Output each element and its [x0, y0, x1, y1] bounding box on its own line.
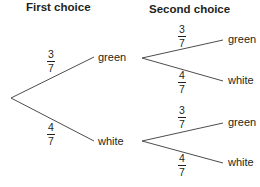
numerator: 3 — [48, 49, 54, 61]
numerator: 4 — [48, 122, 54, 134]
numerator: 3 — [179, 24, 185, 36]
tree-branches — [0, 0, 260, 187]
outcome-green-green: green — [228, 34, 256, 45]
numerator: 3 — [179, 105, 185, 117]
outcome-first-green: green — [98, 52, 126, 63]
prob-green-white: 4 7 — [176, 70, 188, 94]
denominator: 7 — [48, 62, 54, 74]
prob-white-white: 4 7 — [176, 153, 188, 177]
outcome-first-white: white — [98, 136, 124, 147]
denominator: 7 — [179, 118, 185, 130]
prob-green-green: 3 7 — [176, 24, 188, 48]
outcome-white-white: white — [228, 157, 254, 168]
denominator: 7 — [179, 83, 185, 95]
denominator: 7 — [179, 37, 185, 49]
prob-first-green: 3 7 — [45, 49, 57, 73]
denominator: 7 — [179, 166, 185, 178]
prob-white-green: 3 7 — [176, 105, 188, 129]
prob-first-white: 4 7 — [45, 122, 57, 146]
numerator: 4 — [179, 153, 185, 165]
outcome-green-white: white — [228, 75, 254, 86]
outcome-white-green: green — [228, 117, 256, 128]
denominator: 7 — [48, 135, 54, 147]
numerator: 4 — [179, 70, 185, 82]
